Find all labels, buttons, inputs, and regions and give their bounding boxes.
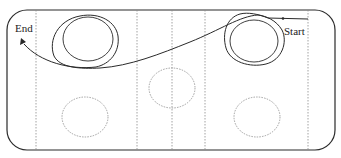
- end-arrowhead-icon: [20, 38, 26, 45]
- start-marker-icon: [282, 17, 285, 20]
- bottom-right-circle: [234, 97, 280, 137]
- zone-lines: [36, 10, 308, 150]
- start-label: Start: [284, 26, 305, 37]
- rink-diagram: [0, 0, 341, 158]
- top-right-inner-circle: [230, 20, 278, 62]
- top-left-inner-circle: [63, 17, 113, 61]
- end-label: End: [15, 23, 33, 34]
- bottom-left-circle: [62, 97, 108, 137]
